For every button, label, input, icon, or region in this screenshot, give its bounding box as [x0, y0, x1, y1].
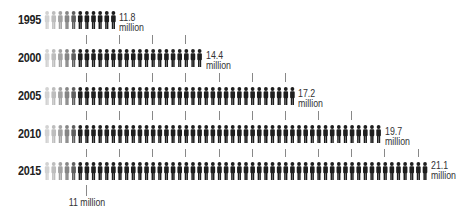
tick-mark [152, 73, 153, 82]
tick-mark [318, 149, 319, 157]
tick-mark [351, 111, 352, 120]
baseline-tick [86, 185, 87, 196]
tick-mark [285, 149, 286, 157]
value-unit: million [431, 171, 456, 181]
person-icons-row [0, 87, 470, 107]
tick-mark [86, 73, 87, 82]
tick-mark [119, 149, 120, 157]
value-unit: million [119, 23, 144, 33]
tick-mark [119, 111, 120, 120]
tick-mark [252, 149, 253, 157]
tick-mark [86, 111, 87, 120]
tick-mark [285, 111, 286, 120]
tick-mark [351, 149, 352, 157]
tick-mark [185, 35, 186, 44]
person-icons-row [0, 162, 470, 182]
value-unit: million [206, 61, 231, 71]
tick-mark [219, 73, 220, 82]
baseline-annotation: 11 million [69, 197, 106, 208]
value-unit: million [298, 99, 323, 109]
tick-mark [185, 111, 186, 120]
tick-mark [152, 149, 153, 157]
pictograph-chart: 1995 11.8 million 2000 14.4 million 2005… [0, 0, 470, 213]
tick-mark [86, 149, 87, 157]
tick-mark [285, 73, 286, 82]
tick-mark [252, 73, 253, 82]
tick-mark [86, 35, 87, 44]
value-unit: million [385, 137, 410, 147]
tick-mark [219, 149, 220, 157]
tick-mark [185, 73, 186, 82]
tick-mark [119, 35, 120, 44]
tick-mark [318, 111, 319, 120]
person-icons-row [0, 49, 470, 69]
person-icons-row [0, 11, 470, 31]
tick-mark [219, 111, 220, 120]
tick-mark [384, 149, 385, 157]
tick-mark [418, 149, 419, 157]
tick-mark [252, 111, 253, 120]
tick-mark [152, 111, 153, 120]
tick-mark [119, 73, 120, 82]
tick-mark [152, 35, 153, 44]
tick-mark [185, 149, 186, 157]
